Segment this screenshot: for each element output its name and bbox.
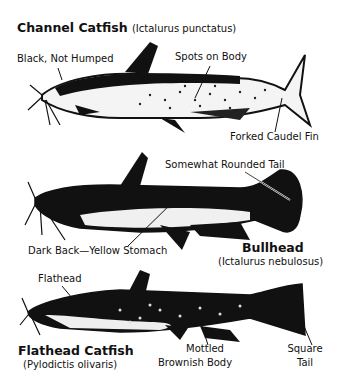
channel-catfish-title: Channel Catfish (Ictalurus punctatus) xyxy=(17,20,236,35)
label-square: Square xyxy=(285,343,325,355)
label-spots-on-body: Spots on Body xyxy=(175,51,247,63)
label-somewhat-rounded-tail: Somewhat Rounded Tail xyxy=(165,159,285,171)
flathead-catfish-title: Flathead Catfish xyxy=(18,343,134,358)
scientific-name: (Ictalurus punctatus) xyxy=(132,23,236,34)
common-name: Channel Catfish xyxy=(17,20,128,35)
label-forked-caudel-fin: Forked Caudel Fin xyxy=(230,131,319,143)
flathead-scientific-name: (Pylodictis olivaris) xyxy=(23,359,117,371)
label-dark-back-yellow-stomach: Dark Back—Yellow Stomach xyxy=(28,245,167,257)
label-brownish-body: Brownish Body xyxy=(158,357,232,369)
bullhead-title: Bullhead xyxy=(242,240,304,255)
label-mottled: Mottled xyxy=(180,343,230,355)
bullhead-scientific-name: (Ictalurus nebulosus) xyxy=(218,256,323,268)
label-flathead: Flathead xyxy=(38,273,82,285)
label-black-not-humped: Black, Not Humped xyxy=(17,53,114,65)
label-tail: Tail xyxy=(285,357,325,369)
